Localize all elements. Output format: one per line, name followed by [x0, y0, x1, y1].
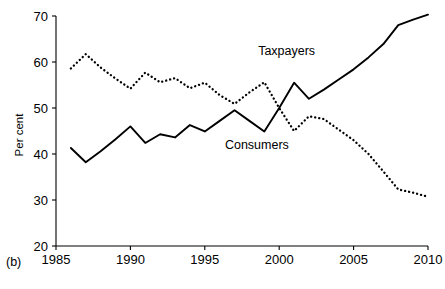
data-series-group — [71, 15, 428, 197]
y-axis-ticks: 203040506070 — [34, 9, 56, 254]
y-tick-label: 30 — [34, 193, 48, 208]
x-tick-label: 2000 — [265, 252, 294, 267]
series-annotations: TaxpayersConsumers — [225, 44, 315, 152]
x-axis-ticks: 198519901995200020052010 — [42, 246, 443, 267]
y-axis-title: Per cent — [13, 113, 25, 157]
panel-label: (b) — [6, 255, 21, 269]
chart-container: 203040506070 198519901995200020052010 Ta… — [0, 0, 445, 289]
y-tick-label: 70 — [34, 9, 48, 24]
series-label-taxpayers: Taxpayers — [258, 44, 315, 58]
axes-group — [56, 16, 428, 246]
x-tick-label: 1995 — [190, 252, 219, 267]
line-chart-svg: 203040506070 198519901995200020052010 Ta… — [0, 0, 445, 289]
x-tick-label: 2005 — [339, 252, 368, 267]
y-tick-label: 60 — [34, 55, 48, 70]
x-tick-label: 1990 — [116, 252, 145, 267]
x-tick-label: 2010 — [414, 252, 443, 267]
x-tick-label: 1985 — [42, 252, 71, 267]
series-label-consumers: Consumers — [225, 138, 289, 152]
y-tick-label: 40 — [34, 147, 48, 162]
y-tick-label: 50 — [34, 101, 48, 116]
series-line-consumers — [71, 54, 428, 197]
